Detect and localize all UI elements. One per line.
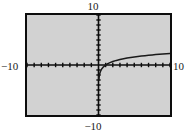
x-axis-max-label: 10 [173,61,184,72]
plot-canvas [27,15,170,115]
x-axis-min-label: −10 [1,61,18,72]
y-axis-max-label: 10 [0,1,186,12]
plot-frame [25,13,172,117]
y-axis-min-label: −10 [0,121,186,132]
graphing-calculator-figure: 10 −10 10 −10 [0,0,186,135]
